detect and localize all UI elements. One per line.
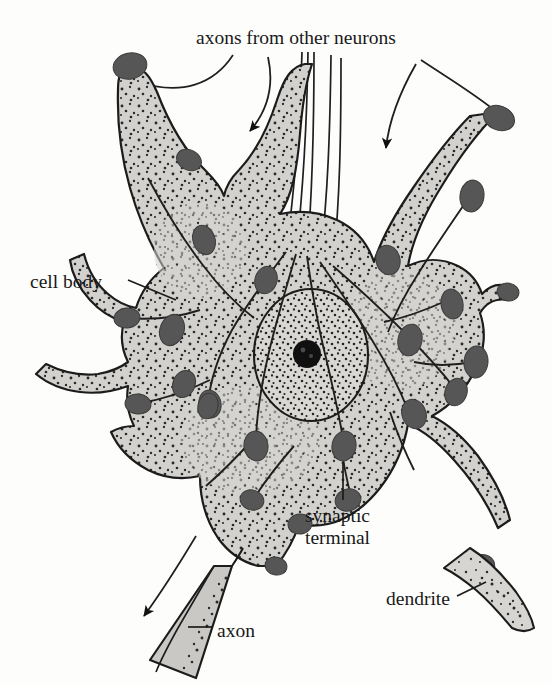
label-dendrite: dendrite [386,588,450,610]
arrow-incoming-left [250,57,270,131]
axon [150,548,243,678]
label-synaptic-terminal-line2: terminal [305,527,370,548]
label-axons-from-other-neurons: axons from other neurons [196,27,396,49]
label-cell-body: cell body [30,271,102,293]
label-axon: axon [217,620,255,642]
bouton [480,101,519,135]
label-leader-axons-other-right [421,60,499,114]
label-synaptic-terminal: synapticterminal [305,505,370,550]
neuron-illustration [0,0,552,684]
arrow-incoming-right [386,64,416,148]
neuron-diagram-figure: axons from other neurons cell body synap… [0,0,552,684]
nucleolus [293,340,321,368]
label-synaptic-terminal-line1: synaptic [305,505,370,526]
